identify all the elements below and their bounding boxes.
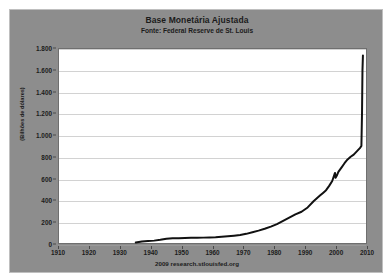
y-tick-mark <box>53 178 56 179</box>
chart-subtitle: Fonte: Federal Reserve de St. Louis <box>10 26 384 35</box>
x-tick-label: 1940 <box>144 249 158 256</box>
y-tick-mark <box>53 113 56 114</box>
x-tick-label: 1930 <box>113 249 127 256</box>
y-tick-mark <box>53 200 56 201</box>
x-tick-label: 2010 <box>360 249 374 256</box>
x-tick-mark <box>182 246 183 249</box>
y-axis-title: (Bilhões de dólares) <box>19 59 25 169</box>
x-tick-label: 1910 <box>51 249 65 256</box>
chart-figure: Base Monetária Ajustada Fonte: Federal R… <box>0 0 392 279</box>
y-tick-mark <box>53 244 56 245</box>
y-tick-mark <box>53 135 56 136</box>
footer-note: 2009 research.stlouisfed.org <box>10 260 384 267</box>
y-tick-label: 0 <box>48 241 52 248</box>
y-tick-mark <box>53 156 56 157</box>
y-tick-label: 1.600 <box>36 66 52 73</box>
x-tick-label: 1970 <box>236 249 250 256</box>
x-tick-mark <box>243 246 244 249</box>
series-line-chart <box>59 49 366 243</box>
x-tick-label: 1960 <box>205 249 219 256</box>
y-tick-mark <box>53 222 56 223</box>
y-tick-label: 1.800 <box>36 45 52 52</box>
y-tick-label: 1.200 <box>36 110 52 117</box>
x-tick-label: 1990 <box>298 249 312 256</box>
series-path-base-monetaria <box>136 55 363 242</box>
y-tick-mark <box>53 48 56 49</box>
x-tick-label: 1920 <box>82 249 96 256</box>
x-tick-mark <box>120 246 121 249</box>
x-tick-mark <box>274 246 275 249</box>
x-tick-label: 2000 <box>329 249 343 256</box>
y-tick-label: 600 <box>41 175 52 182</box>
y-tick-mark <box>53 69 56 70</box>
x-axis-ticks: 1910192019301940195019601970198019902000… <box>58 246 367 258</box>
title-block: Base Monetária Ajustada Fonte: Federal R… <box>10 15 384 35</box>
y-tick-label: 800 <box>41 153 52 160</box>
chart-panel: Base Monetária Ajustada Fonte: Federal R… <box>9 9 383 273</box>
y-tick-label: 1.000 <box>36 132 52 139</box>
x-tick-mark <box>151 246 152 249</box>
y-tick-label: 400 <box>41 197 52 204</box>
y-axis-ticks: 02004006008001.0001.2001.4001.6001.800 <box>10 48 56 244</box>
chart-title: Base Monetária Ajustada <box>10 15 384 26</box>
y-tick-label: 200 <box>41 219 52 226</box>
x-tick-mark <box>58 246 59 249</box>
x-tick-mark <box>367 246 368 249</box>
x-tick-mark <box>213 246 214 249</box>
y-tick-mark <box>53 91 56 92</box>
plot-area <box>58 48 367 244</box>
y-tick-label: 1.400 <box>36 88 52 95</box>
x-tick-label: 1980 <box>267 249 281 256</box>
x-tick-mark <box>89 246 90 249</box>
x-tick-label: 1950 <box>174 249 188 256</box>
x-tick-mark <box>305 246 306 249</box>
x-tick-mark <box>336 246 337 249</box>
